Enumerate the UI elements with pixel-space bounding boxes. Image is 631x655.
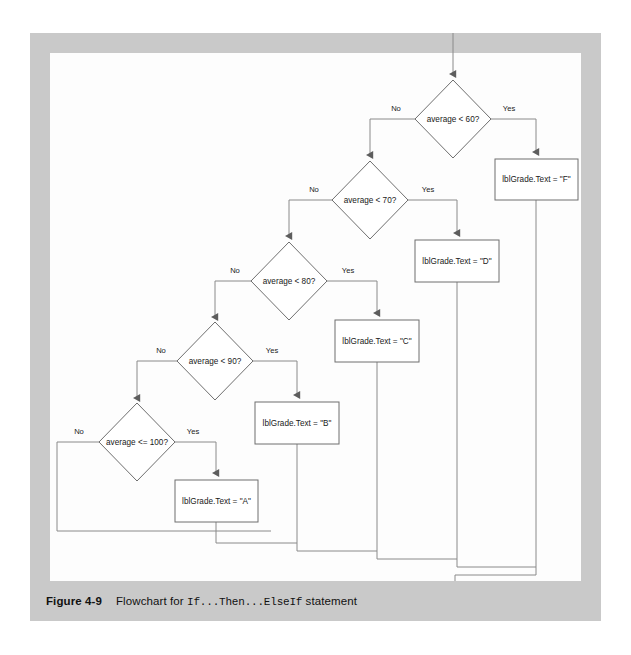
figure-page: average < 60? average < 70? average < 80… [0, 0, 631, 655]
figure-caption-prefix: Flowchart for [116, 595, 187, 607]
figure-number: Figure 4-9 [46, 595, 102, 607]
figure-caption-text: Figure 4-9Flowchart for If...Then...Else… [46, 595, 357, 608]
figure-caption-suffix: statement [302, 595, 357, 607]
flowchart-canvas [50, 53, 581, 581]
figure-caption: Figure 4-9Flowchart for If...Then...Else… [30, 581, 601, 621]
figure-caption-code: If...Then...ElseIf [187, 596, 302, 608]
